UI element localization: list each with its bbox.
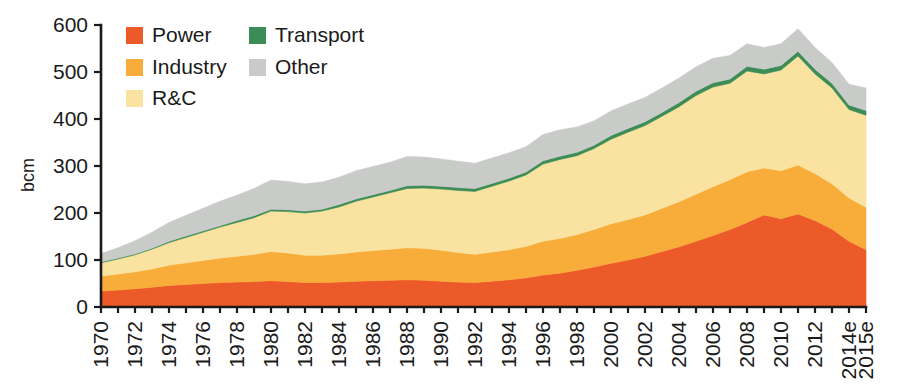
x-tick-label: 1982 xyxy=(293,321,316,368)
x-tick-label: 1980 xyxy=(259,321,282,368)
x-tick-label: 1978 xyxy=(225,321,248,368)
x-tick-label: 1974 xyxy=(157,321,180,368)
legend-label-other: Other xyxy=(275,55,328,78)
x-tick-label: 1972 xyxy=(123,321,146,368)
legend-label-power: Power xyxy=(152,23,212,46)
legend-swatch-power xyxy=(126,27,143,44)
legend-swatch-transport xyxy=(249,27,266,44)
x-axis-tick-labels: 1970197219741976197819801982198419861988… xyxy=(89,321,877,380)
y-tick-label: 600 xyxy=(53,13,88,36)
x-tick-label: 2008 xyxy=(735,321,758,368)
x-tick-label: 1992 xyxy=(463,321,486,368)
x-tick-label: 2006 xyxy=(701,321,724,368)
x-tick-label: 1986 xyxy=(361,321,384,368)
x-tick-label: 1984 xyxy=(327,321,350,368)
x-tick-label: 1998 xyxy=(565,321,588,368)
chart-legend: PowerIndustryR&CTransportOther xyxy=(126,23,364,109)
y-tick-label: 500 xyxy=(53,60,88,83)
x-tick-label: 2012 xyxy=(803,321,826,368)
y-tick-label: 300 xyxy=(53,154,88,177)
x-tick-label: 1994 xyxy=(497,321,520,368)
legend-label-transport: Transport xyxy=(275,23,364,46)
y-axis-tick-labels: 0100200300400500600 xyxy=(53,13,88,318)
y-tick-label: 100 xyxy=(53,248,88,271)
x-tick-label: 2000 xyxy=(599,321,622,368)
legend-swatch-r-c xyxy=(126,90,143,107)
legend-swatch-industry xyxy=(126,59,143,76)
x-tick-label: 2002 xyxy=(633,321,656,368)
x-tick-label: 1976 xyxy=(191,321,214,368)
y-tick-label: 200 xyxy=(53,201,88,224)
legend-label-r-c: R&C xyxy=(152,86,196,109)
y-axis-title: bcm xyxy=(18,158,38,192)
x-tick-label: 1988 xyxy=(395,321,418,368)
stacked-area-chart: 0100200300400500600 19701972197419761978… xyxy=(0,0,904,386)
chart-canvas: 0100200300400500600 19701972197419761978… xyxy=(0,0,904,386)
y-tick-label: 0 xyxy=(76,295,88,318)
legend-label-industry: Industry xyxy=(152,55,227,78)
y-axis-title-text: bcm xyxy=(18,158,38,192)
x-tick-label: 1990 xyxy=(429,321,452,368)
x-tick-label: 2010 xyxy=(769,321,792,368)
x-tick-label: 1970 xyxy=(89,321,112,368)
y-tick-label: 400 xyxy=(53,107,88,130)
legend-swatch-other xyxy=(249,59,266,76)
x-tick-label: 2015e xyxy=(854,321,877,379)
x-tick-label: 2004 xyxy=(667,321,690,368)
x-tick-label: 1996 xyxy=(531,321,554,368)
